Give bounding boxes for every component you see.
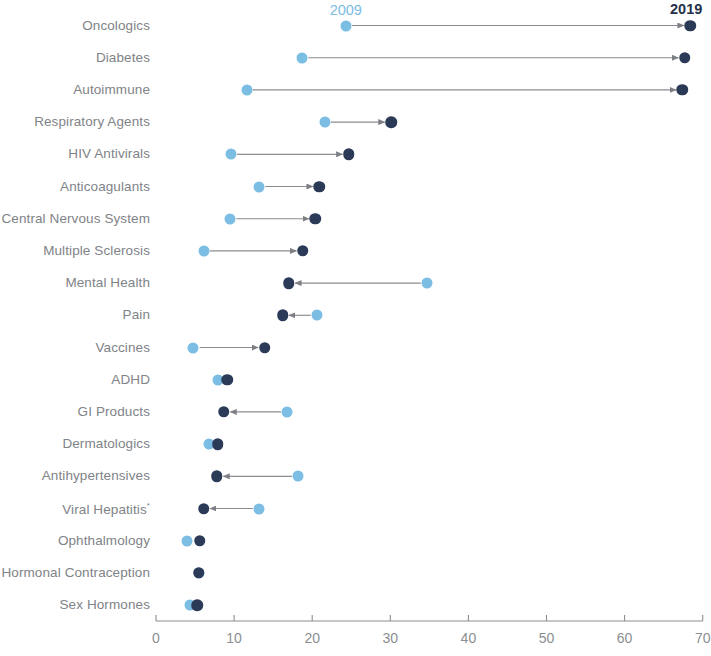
- data-point-2009[interactable]: [282, 406, 293, 417]
- category-label: Antihypertensives: [42, 470, 150, 484]
- data-point-2019[interactable]: [192, 599, 204, 611]
- x-axis-tick-label: 10: [226, 630, 242, 646]
- legend-label-2019: 2019: [670, 1, 702, 17]
- data-point-2019[interactable]: [677, 84, 689, 96]
- category-label: Respiratory Agents: [34, 115, 150, 129]
- plot-area: OncologicsDiabetesAutoimmuneRespiratory …: [0, 0, 711, 656]
- data-point-2019[interactable]: [212, 438, 224, 450]
- data-point-2019[interactable]: [313, 181, 325, 193]
- data-point-2009[interactable]: [422, 278, 433, 289]
- data-point-2019[interactable]: [211, 471, 223, 483]
- x-axis-tick-label: 60: [617, 630, 633, 646]
- data-point-2009[interactable]: [241, 84, 252, 95]
- arrow-layer: [0, 0, 711, 656]
- data-point-2009[interactable]: [225, 213, 236, 224]
- category-label: Autoimmune: [73, 83, 150, 97]
- category-label: Hormonal Contraception: [1, 566, 150, 580]
- category-label: Oncologics: [82, 19, 150, 33]
- data-point-2019[interactable]: [218, 406, 230, 418]
- data-point-2019[interactable]: [385, 116, 397, 128]
- category-label: Multiple Sclerosis: [43, 244, 150, 258]
- legend-label-2009: 2009: [330, 2, 362, 18]
- data-point-2009[interactable]: [188, 342, 199, 353]
- category-label: Central Nervous System: [2, 212, 151, 226]
- category-label: GI Products: [78, 405, 150, 419]
- data-point-2009[interactable]: [182, 535, 193, 546]
- data-point-2019[interactable]: [679, 52, 691, 64]
- data-point-2009[interactable]: [297, 52, 308, 63]
- dumbbell-chart: OncologicsDiabetesAutoimmuneRespiratory …: [0, 0, 711, 656]
- data-point-2009[interactable]: [319, 117, 330, 128]
- category-label: Mental Health: [65, 276, 150, 290]
- data-point-2009[interactable]: [254, 503, 265, 514]
- data-point-2019[interactable]: [193, 567, 205, 579]
- data-point-2019[interactable]: [198, 503, 210, 515]
- category-label: Anticoagulants: [60, 180, 150, 194]
- x-axis-tick-label: 50: [539, 630, 555, 646]
- category-label: Viral Hepatitis*: [62, 502, 150, 516]
- data-point-2009[interactable]: [340, 20, 351, 31]
- category-label: Ophthalmology: [58, 534, 150, 548]
- data-point-2019[interactable]: [194, 535, 206, 547]
- data-point-2019[interactable]: [283, 277, 295, 289]
- data-point-2009[interactable]: [293, 471, 304, 482]
- x-axis-tick-label: 30: [383, 630, 399, 646]
- category-label: ADHD: [111, 373, 150, 387]
- category-label: Diabetes: [96, 51, 150, 65]
- data-point-2019[interactable]: [343, 149, 355, 161]
- data-point-2009[interactable]: [254, 181, 265, 192]
- category-label: Dermatologics: [62, 437, 150, 451]
- data-point-2019[interactable]: [259, 342, 271, 354]
- x-axis-tick-label: 70: [695, 630, 711, 646]
- data-point-2019[interactable]: [310, 213, 322, 225]
- category-label: Vaccines: [95, 341, 150, 355]
- data-point-2019[interactable]: [297, 245, 309, 257]
- data-point-2009[interactable]: [198, 245, 209, 256]
- x-axis-tick-label: 40: [461, 630, 477, 646]
- data-point-2009[interactable]: [225, 149, 236, 160]
- data-point-2019[interactable]: [221, 374, 233, 386]
- category-label: Pain: [123, 309, 150, 323]
- data-point-2009[interactable]: [311, 310, 322, 321]
- data-point-2019[interactable]: [277, 310, 289, 322]
- category-label: Sex Hormones: [60, 598, 151, 612]
- category-label: HIV Antivirals: [68, 148, 150, 162]
- x-axis-tick-label: 0: [152, 630, 160, 646]
- x-axis-tick-label: 20: [304, 630, 320, 646]
- data-point-2019[interactable]: [684, 20, 696, 32]
